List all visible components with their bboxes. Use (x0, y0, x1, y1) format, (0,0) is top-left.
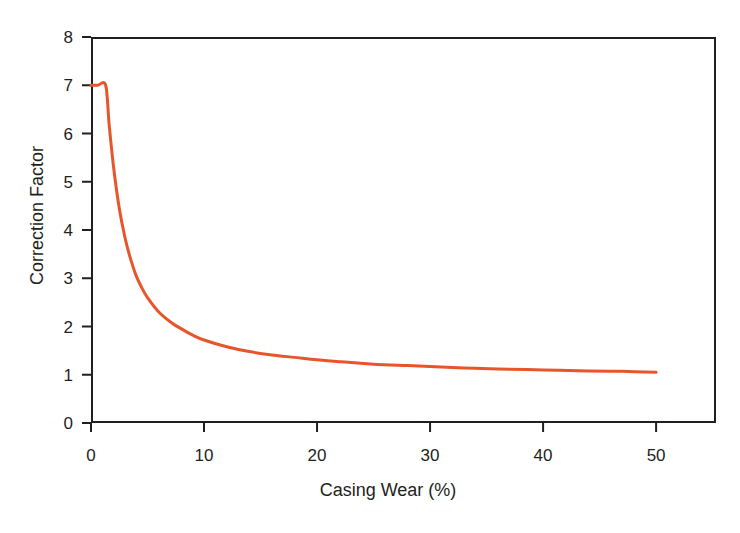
x-tick-label: 40 (523, 447, 563, 464)
x-axis-ticks (91, 423, 656, 432)
figure-canvas: 012345678 01020304050 Casing Wear (%) Co… (0, 0, 740, 533)
y-tick-label: 3 (51, 270, 73, 287)
y-tick-label: 0 (51, 415, 73, 432)
x-tick-label: 30 (410, 447, 450, 464)
y-tick-label: 1 (51, 367, 73, 384)
plot-frame (91, 37, 716, 423)
y-tick-label: 8 (51, 29, 73, 46)
x-tick-label: 20 (297, 447, 337, 464)
y-tick-label: 6 (51, 126, 73, 143)
y-tick-label: 7 (51, 77, 73, 94)
x-tick-label: 0 (71, 447, 111, 464)
y-tick-label: 2 (51, 319, 73, 336)
x-tick-label: 10 (184, 447, 224, 464)
y-axis-ticks (82, 37, 91, 423)
y-tick-label: 4 (51, 222, 73, 239)
y-axis-title: Correction Factor (27, 136, 48, 296)
x-tick-label: 50 (636, 447, 676, 464)
x-axis-title: Casing Wear (%) (258, 480, 518, 501)
y-tick-label: 5 (51, 174, 73, 191)
